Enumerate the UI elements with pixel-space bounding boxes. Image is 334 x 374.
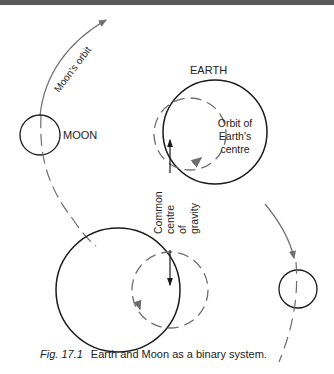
binary-system-diagram: Moon's orbit MOON EARTH Orbit of Earth's… bbox=[0, 0, 334, 374]
svg-text:of: of bbox=[176, 225, 188, 234]
figure-number: Fig. 17.1 bbox=[40, 348, 83, 360]
caption-text: Earth and Moon as a binary system. bbox=[91, 348, 267, 360]
figure-caption: Fig. 17.1Earth and Moon as a binary syst… bbox=[40, 348, 267, 360]
earth-label: EARTH bbox=[190, 64, 227, 76]
earth-circle-bottom bbox=[56, 228, 180, 352]
earth-centre-orbit-top bbox=[154, 98, 226, 170]
svg-text:Common: Common bbox=[152, 191, 164, 234]
common-centre-of-gravity-label: Common centre of gravity bbox=[152, 191, 200, 234]
orbit-label-line3: centre bbox=[220, 143, 249, 155]
moon-orbit-dashed-right bbox=[279, 262, 297, 362]
moon-orbit-arc-right bbox=[265, 204, 294, 258]
moon-label: MOON bbox=[63, 129, 97, 141]
svg-text:gravity: gravity bbox=[188, 202, 200, 234]
moon-orbit-label: Moon's orbit bbox=[52, 44, 94, 94]
moon-circle-right bbox=[279, 270, 317, 308]
earth-circle-top bbox=[163, 80, 267, 184]
moon-circle-top bbox=[20, 115, 60, 155]
orbit-label-line2: Earth's bbox=[219, 130, 251, 142]
orbit-label-line1: Orbit of bbox=[218, 117, 253, 129]
moon-orbit-dashed-left-2 bbox=[72, 218, 96, 246]
svg-text:centre: centre bbox=[164, 205, 176, 234]
